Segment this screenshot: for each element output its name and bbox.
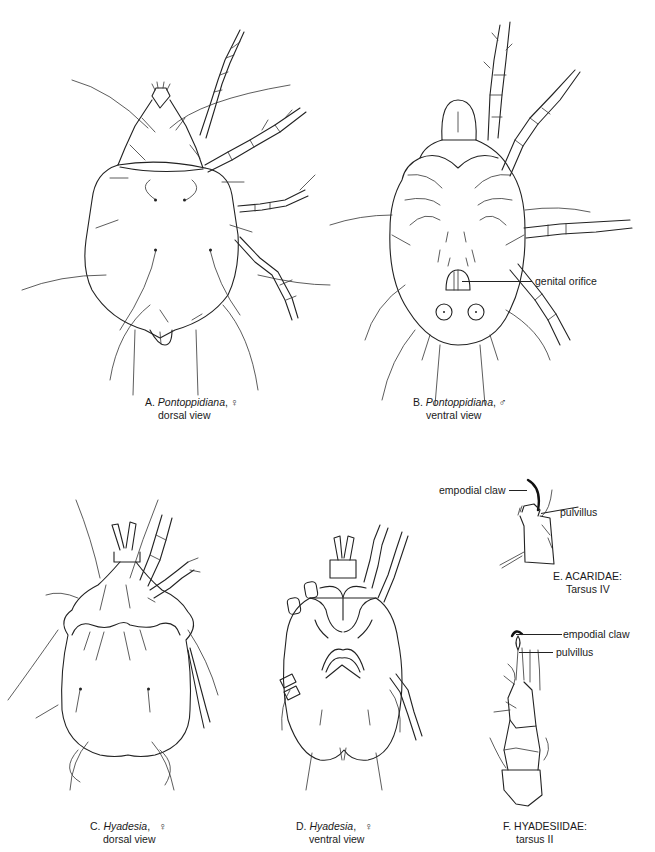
pulvillus-leader-f bbox=[519, 652, 553, 653]
mite-dorsal-illustration bbox=[0, 460, 260, 790]
mite-dorsal-illustration bbox=[0, 0, 330, 340]
panel-e-caption: E. ACARIDAE: Tarsus IV bbox=[553, 570, 622, 596]
view-label: dorsal view bbox=[145, 409, 239, 422]
panel-a-drawing bbox=[0, 0, 330, 340]
sex-symbol: ♀ bbox=[231, 396, 239, 408]
empodial-claw-label-f: empodial claw bbox=[563, 628, 630, 640]
mite-ventral-illustration bbox=[330, 0, 655, 420]
family-name: HYADESIIDAE: bbox=[514, 820, 587, 832]
empodial-claw-leader-e bbox=[509, 490, 527, 491]
genus-name: Hyadesia bbox=[309, 820, 353, 832]
sex-symbol: ♀ bbox=[365, 820, 373, 832]
panel-letter: B. bbox=[413, 396, 423, 408]
part-label: Tarsus IV bbox=[553, 583, 622, 596]
view-label: ventral view bbox=[413, 409, 507, 422]
panel-b-caption: B. Pontoppidiana, ♂ ventral view bbox=[413, 396, 507, 422]
panel-letter: D. bbox=[296, 820, 307, 832]
panel-letter: C. bbox=[90, 820, 101, 832]
panel-a-caption: A. Pontoppidiana, ♀ dorsal view bbox=[145, 396, 239, 422]
empodial-claw-leader-f bbox=[516, 634, 562, 635]
family-name: ACARIDAE: bbox=[565, 570, 622, 582]
genus-name: Pontoppidiana bbox=[426, 396, 493, 408]
genus-name: Pontoppidiana bbox=[158, 396, 225, 408]
sex-symbol: ♂ bbox=[499, 396, 507, 408]
panel-c-caption: C. Hyadesia, ♀ dorsal view bbox=[90, 820, 167, 846]
genus-name: Hyadesia bbox=[103, 820, 147, 832]
panel-letter: F. bbox=[503, 820, 511, 832]
panel-b-drawing bbox=[330, 0, 655, 420]
view-label: dorsal view bbox=[90, 833, 167, 846]
sex-symbol: ♀ bbox=[159, 820, 167, 832]
panel-letter: E. bbox=[553, 570, 563, 582]
empodial-claw-label-e: empodial claw bbox=[439, 484, 506, 496]
pulvillus-label-e: pulvillus bbox=[560, 506, 597, 518]
panel-d-drawing bbox=[260, 470, 450, 790]
panel-d-caption: D. Hyadesia, ♀ ventral view bbox=[296, 820, 373, 846]
view-label: ventral view bbox=[296, 833, 373, 846]
genital-orifice-label: genital orifice bbox=[535, 275, 597, 287]
part-label: tarsus II bbox=[503, 833, 587, 846]
mite-ventral-illustration bbox=[260, 470, 450, 790]
panel-f-caption: F. HYADESIIDAE: tarsus II bbox=[503, 820, 587, 846]
genital-orifice-leader-line bbox=[462, 281, 532, 282]
panel-letter: A. bbox=[145, 396, 155, 408]
pulvillus-label-f: pulvillus bbox=[556, 646, 593, 658]
panel-c-drawing bbox=[0, 460, 260, 790]
